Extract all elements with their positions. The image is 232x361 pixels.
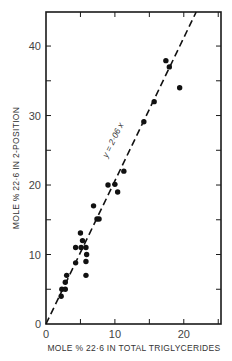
y-tick-label: 40 — [29, 40, 41, 52]
y-tick-label: 30 — [29, 110, 41, 122]
data-points — [58, 58, 182, 299]
y-tick-label: 10 — [29, 249, 41, 261]
data-point — [84, 252, 89, 257]
x-tick-label: 0 — [43, 328, 49, 340]
data-point — [141, 119, 146, 124]
scatter-chart: 01020010203040 y = 2·06 x MOLE % 22·6 IN… — [0, 0, 232, 361]
data-point — [151, 99, 156, 104]
x-tick-label: 20 — [178, 328, 190, 340]
data-point — [121, 168, 126, 173]
data-point — [78, 230, 83, 235]
axis-tick-labels: 01020010203040 — [29, 40, 190, 340]
data-point — [73, 260, 78, 265]
data-point — [80, 238, 85, 243]
x-tick-label: 10 — [109, 328, 121, 340]
data-point — [73, 245, 78, 250]
data-point — [105, 182, 110, 187]
data-point — [58, 294, 63, 299]
equation-annotation: y = 2·06 x — [100, 120, 126, 160]
x-axis-title: MOLE % 22·6 IN TOTAL TRIGLYCERIDES — [47, 343, 220, 353]
data-point — [78, 245, 83, 250]
data-point — [115, 189, 120, 194]
data-point — [83, 273, 88, 278]
data-point — [96, 216, 101, 221]
data-point — [63, 280, 68, 285]
y-tick-label: 0 — [35, 318, 41, 330]
data-point — [91, 203, 96, 208]
data-point — [83, 259, 88, 264]
data-point — [167, 64, 172, 69]
axis-ticks — [46, 12, 221, 324]
data-point — [177, 85, 182, 90]
data-point — [83, 245, 88, 250]
plot-frame — [46, 12, 221, 324]
data-point — [163, 58, 168, 63]
y-tick-label: 20 — [29, 179, 41, 191]
plot-border — [46, 12, 221, 324]
data-point — [112, 182, 117, 187]
data-point — [63, 287, 68, 292]
y-axis-title: MOLE % 22·6 IN 2-POSITION — [11, 107, 21, 229]
data-point — [64, 273, 69, 278]
